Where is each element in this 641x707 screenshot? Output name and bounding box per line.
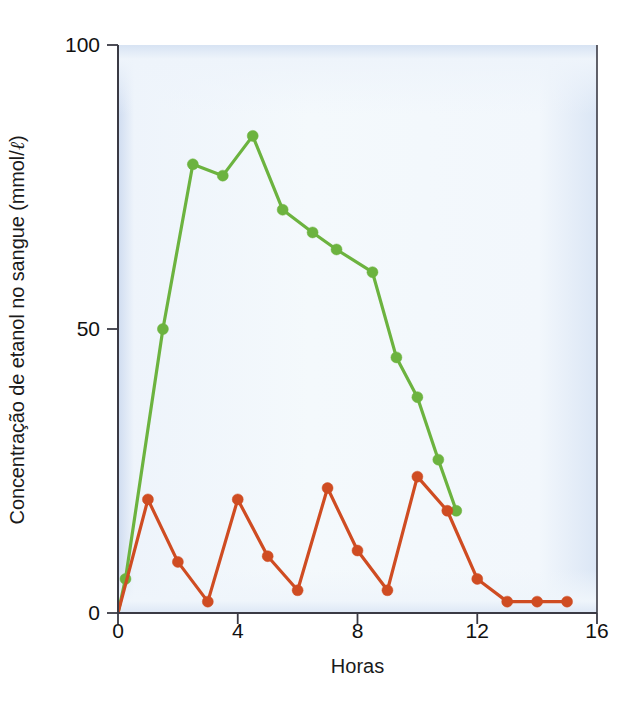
data-point xyxy=(382,585,393,596)
data-point xyxy=(307,227,318,238)
data-point xyxy=(442,505,453,516)
series-line xyxy=(118,477,567,613)
data-point xyxy=(562,596,573,607)
data-point xyxy=(187,159,198,170)
data-point xyxy=(391,352,402,363)
data-point xyxy=(472,573,483,584)
plot-area xyxy=(118,45,597,613)
x-axis-tick-label: 12 xyxy=(457,620,497,641)
y-axis-tick-label: 50 xyxy=(48,318,100,339)
y-axis-title-text: Concentração de etanol no sangue (mmol/ xyxy=(6,150,29,524)
data-point xyxy=(217,170,228,181)
x-axis-title: Horas xyxy=(118,655,597,678)
series-red-series xyxy=(118,471,573,613)
data-point xyxy=(142,494,153,505)
data-point xyxy=(172,556,183,567)
plot-series-layer xyxy=(118,45,597,613)
data-point xyxy=(412,471,423,482)
data-point xyxy=(157,324,168,335)
data-point xyxy=(232,494,243,505)
chart-figure: Concentração de etanol no sangue (mmol/ℓ… xyxy=(0,0,641,707)
data-point xyxy=(331,244,342,255)
data-point xyxy=(322,483,333,494)
data-point xyxy=(367,267,378,278)
y-axis-title: Concentração de etanol no sangue (mmol/ℓ… xyxy=(0,0,34,660)
data-point xyxy=(502,596,513,607)
data-point xyxy=(352,545,363,556)
data-point xyxy=(532,596,543,607)
x-axis-tick-label: 0 xyxy=(98,620,138,641)
data-point xyxy=(202,596,213,607)
y-axis-tick-label: 100 xyxy=(48,34,100,55)
y-axis-unit-litre: ℓ xyxy=(6,142,29,150)
data-point xyxy=(277,204,288,215)
data-point xyxy=(433,454,444,465)
y-axis-tick-label: 0 xyxy=(48,602,100,623)
x-axis-tick-label: 4 xyxy=(218,620,258,641)
y-axis-title-close-paren: ) xyxy=(6,136,29,143)
data-point xyxy=(412,392,423,403)
series-green-series xyxy=(118,130,462,613)
data-point xyxy=(292,585,303,596)
x-axis-tick-label: 16 xyxy=(577,620,617,641)
data-point xyxy=(262,551,273,562)
x-axis-tick-label: 8 xyxy=(338,620,378,641)
data-point xyxy=(247,130,258,141)
